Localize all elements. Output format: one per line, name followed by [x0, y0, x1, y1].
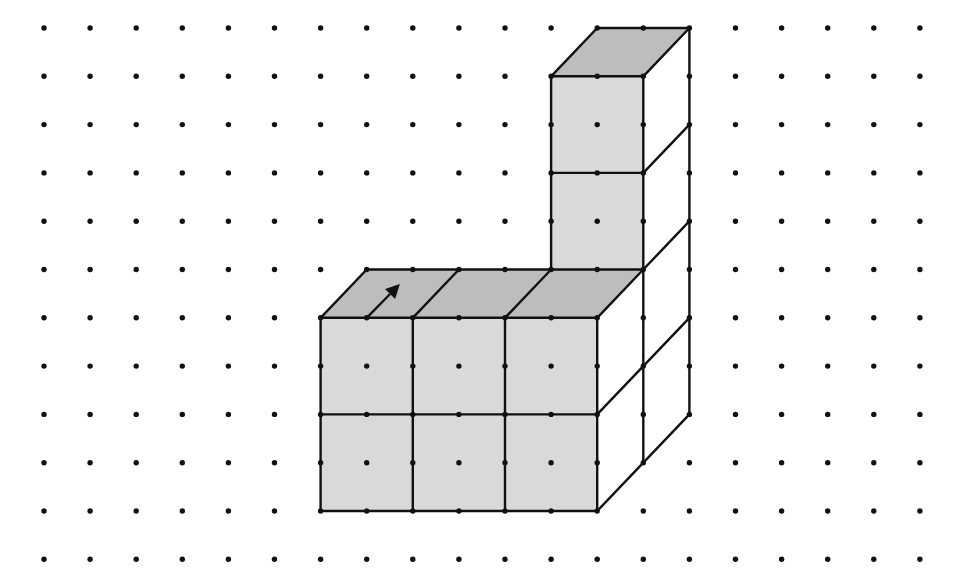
grid-dot: [548, 315, 553, 320]
grid-dot: [779, 460, 784, 465]
grid-dot: [180, 74, 185, 79]
grid-dot: [318, 315, 323, 320]
grid-dot: [364, 74, 369, 79]
grid-dot: [917, 25, 922, 30]
grid-dot: [226, 74, 231, 79]
grid-dot: [272, 219, 277, 224]
grid-dot: [779, 412, 784, 417]
grid-dot: [41, 460, 46, 465]
grid-dot: [502, 267, 507, 272]
grid-dot: [41, 219, 46, 224]
grid-dot: [318, 460, 323, 465]
grid-dot: [456, 315, 461, 320]
grid-dot: [226, 508, 231, 513]
grid-dot: [917, 219, 922, 224]
grid-dot: [733, 170, 738, 175]
grid-dot: [733, 412, 738, 417]
grid-dot: [41, 363, 46, 368]
grid-dot: [871, 25, 876, 30]
grid-dot: [410, 267, 415, 272]
grid-dot: [502, 74, 507, 79]
grid-dot: [226, 219, 231, 224]
grid-dot: [548, 267, 553, 272]
grid-dot: [595, 363, 600, 368]
grid-dot: [871, 74, 876, 79]
grid-dot: [180, 460, 185, 465]
grid-dot: [595, 412, 600, 417]
grid-dot: [41, 74, 46, 79]
grid-dot: [318, 122, 323, 127]
grid-dot: [226, 363, 231, 368]
grid-dot: [502, 170, 507, 175]
grid-dot: [364, 412, 369, 417]
grid-dot: [825, 122, 830, 127]
grid-dot: [41, 25, 46, 30]
grid-dot: [779, 74, 784, 79]
grid-dot: [917, 74, 922, 79]
grid-dot: [456, 412, 461, 417]
grid-dot: [456, 363, 461, 368]
grid-dot: [134, 557, 139, 562]
grid-dot: [134, 170, 139, 175]
grid-dot: [410, 363, 415, 368]
grid-dot: [871, 412, 876, 417]
grid-dot: [687, 315, 692, 320]
grid-dot: [41, 267, 46, 272]
isometric-dot-grid-drawing: [0, 0, 977, 582]
grid-dot: [548, 170, 553, 175]
grid-dot: [871, 363, 876, 368]
grid-dot: [871, 508, 876, 513]
grid-dot: [272, 170, 277, 175]
grid-dot: [272, 25, 277, 30]
grid-dot: [134, 508, 139, 513]
grid-dot: [687, 363, 692, 368]
grid-dot: [779, 219, 784, 224]
grid-dot: [410, 122, 415, 127]
grid-dot: [687, 557, 692, 562]
grid-dot: [41, 557, 46, 562]
grid-dot: [226, 412, 231, 417]
grid-dot: [687, 25, 692, 30]
grid-dot: [226, 25, 231, 30]
grid-dot: [917, 267, 922, 272]
grid-dot: [180, 315, 185, 320]
grid-dot: [87, 460, 92, 465]
grid-dot: [87, 363, 92, 368]
grid-dot: [548, 460, 553, 465]
grid-dot: [687, 219, 692, 224]
grid-dot: [272, 557, 277, 562]
grid-dot: [41, 170, 46, 175]
grid-dot: [825, 412, 830, 417]
grid-dot: [318, 25, 323, 30]
grid-dot: [871, 557, 876, 562]
grid-dot: [226, 557, 231, 562]
grid-dot: [687, 122, 692, 127]
grid-dot: [548, 508, 553, 513]
grid-dot: [410, 460, 415, 465]
grid-dot: [733, 219, 738, 224]
grid-dot: [272, 267, 277, 272]
grid-dot: [456, 219, 461, 224]
grid-dot: [180, 219, 185, 224]
grid-dot: [641, 557, 646, 562]
grid-dot: [456, 25, 461, 30]
grid-dot: [318, 508, 323, 513]
grid-dot: [134, 363, 139, 368]
grid-dot: [779, 363, 784, 368]
grid-dot: [272, 122, 277, 127]
grid-dot: [41, 412, 46, 417]
grid-dot: [595, 25, 600, 30]
grid-dot: [364, 122, 369, 127]
grid-dot: [548, 363, 553, 368]
grid-dot: [134, 460, 139, 465]
grid-dot: [364, 219, 369, 224]
grid-dot: [364, 363, 369, 368]
grid-dot: [87, 508, 92, 513]
grid-dot: [134, 122, 139, 127]
grid-dot: [456, 508, 461, 513]
grid-dot: [318, 267, 323, 272]
grid-dot: [825, 219, 830, 224]
grid-dot: [364, 460, 369, 465]
grid-dot: [825, 557, 830, 562]
grid-dot: [410, 170, 415, 175]
